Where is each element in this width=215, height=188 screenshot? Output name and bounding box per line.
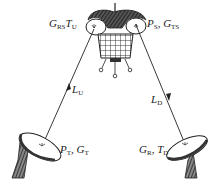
receive-earth-station-icon — [163, 131, 210, 178]
link-diagram — [0, 0, 215, 188]
uplink-loss-label: LU — [72, 84, 83, 97]
transmit-station-label: PT, GT — [60, 144, 89, 157]
uplink-arrow-icon — [66, 83, 71, 91]
receive-station-label: GR, TD — [139, 144, 168, 157]
satellite-transmit-label: PS, GTS — [147, 18, 179, 31]
satellite-receive-label: GRSTU — [49, 18, 77, 31]
downlink-path — [136, 25, 185, 144]
downlink-loss-label: LD — [151, 94, 162, 107]
transmit-earth-station-icon — [12, 127, 65, 178]
uplink-path — [43, 29, 94, 144]
satellite-icon — [86, 3, 146, 78]
